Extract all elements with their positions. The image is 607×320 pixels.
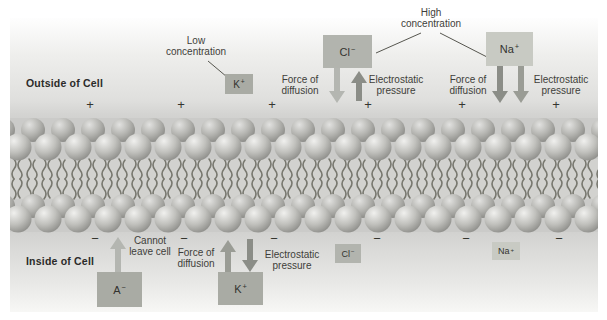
- chloride-force-of-diffusion-label: Force of diffusion: [273, 74, 327, 96]
- ion-charge: +: [515, 42, 519, 51]
- ion-charge: +: [242, 282, 246, 291]
- ion-charge: −: [121, 283, 125, 292]
- low-concentration-label: Low concentration: [156, 35, 236, 57]
- potassium-electrostatic-down-arrow-icon: [242, 239, 258, 272]
- cannot-leave-cell-label: Cannot leave cell: [126, 235, 174, 257]
- outside-plus-sign: +: [456, 97, 468, 112]
- outside-plus-sign: +: [84, 97, 96, 112]
- ion-symbol: Na: [498, 246, 510, 256]
- outside-plus-sign: +: [266, 97, 278, 112]
- sodium-electrostatic-pressure-label: Electrostatic pressure: [529, 74, 593, 96]
- potassium-force-of-diffusion-label: Force of diffusion: [169, 247, 223, 269]
- anion-cannot-leave-up-arrow-icon: [110, 237, 126, 272]
- outside-plus-sign: +: [550, 97, 562, 112]
- chloride-electrostatic-pressure-label: Electrostatic pressure: [364, 74, 428, 96]
- potassium-electrostatic-pressure-label: Electrostatic pressure: [260, 249, 324, 271]
- inside-minus-sign: −: [89, 231, 101, 246]
- ion-charge: +: [510, 246, 514, 253]
- phospholipid-bilayer: [10, 113, 598, 235]
- sodium-electrostatic-down-arrow-icon: [513, 66, 529, 103]
- membrane-diagram: Outside of Cell Inside of Cell Low conce…: [0, 0, 607, 320]
- potassium-ion-box-outside: K+: [225, 74, 253, 94]
- ion-charge: +: [241, 78, 245, 85]
- anion-box-inside: A−: [97, 272, 142, 307]
- chloride-diffusion-down-arrow-icon: [329, 68, 345, 103]
- inside-minus-sign: −: [460, 231, 472, 246]
- inside-minus-sign: −: [178, 231, 190, 246]
- outside-plus-sign: +: [175, 97, 187, 112]
- chloride-ion-box-outside: Cl−: [323, 35, 372, 68]
- sodium-ion-box-inside: Na+: [492, 242, 520, 260]
- ion-symbol: Na: [500, 43, 514, 55]
- inside-minus-sign: −: [553, 231, 565, 246]
- ion-charge: −: [351, 45, 355, 54]
- sodium-ion-box-outside: Na+: [486, 32, 533, 66]
- high-concentration-label: High concentration: [390, 7, 472, 29]
- outside-of-cell-label: Outside of Cell: [26, 77, 103, 89]
- ion-symbol: Cl: [341, 249, 350, 259]
- chloride-ion-box-inside: Cl−: [335, 244, 361, 263]
- ion-symbol: K: [233, 79, 240, 90]
- ion-symbol: A: [113, 284, 120, 296]
- potassium-ion-box-inside: K+: [218, 272, 263, 305]
- inside-of-cell-label: Inside of Cell: [26, 255, 94, 267]
- inside-minus-sign: −: [371, 231, 383, 246]
- ion-symbol: K: [234, 283, 241, 295]
- sodium-force-of-diffusion-label: Force of diffusion: [441, 74, 495, 96]
- inside-minus-sign: −: [268, 231, 280, 246]
- ion-symbol: Cl: [340, 46, 350, 58]
- ion-charge: −: [351, 248, 355, 255]
